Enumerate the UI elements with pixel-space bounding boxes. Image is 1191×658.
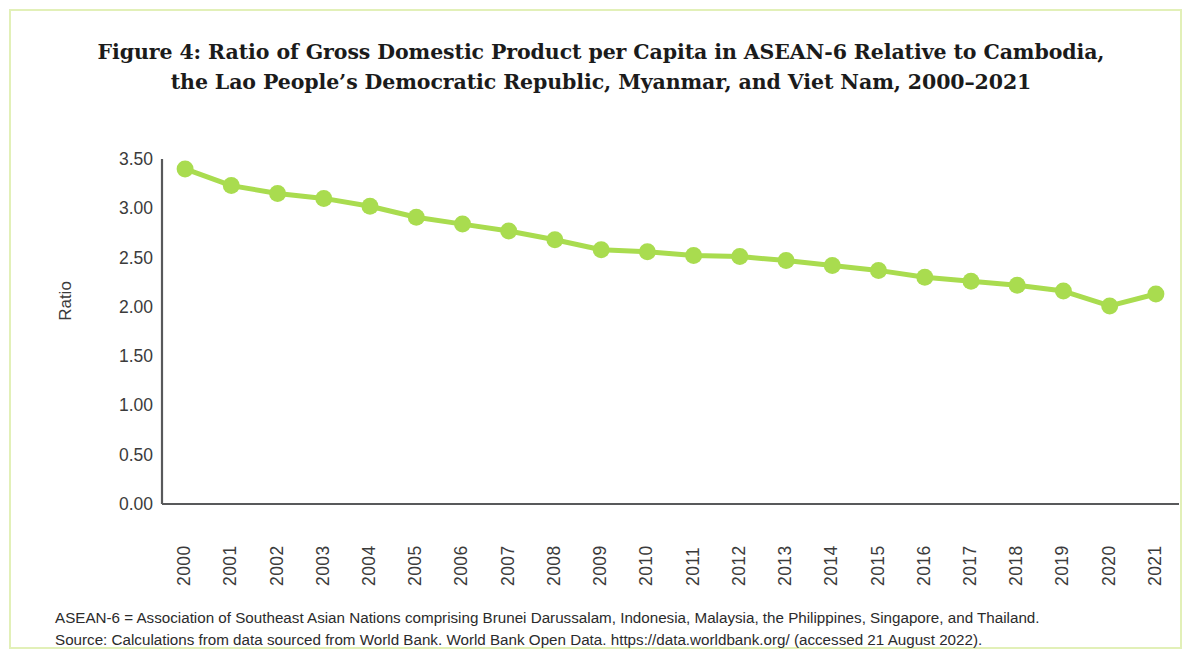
chart-area: Ratio 0.000.501.001.502.002.503.003.50 2… <box>11 11 1191 611</box>
note-abbreviation: ASEAN-6 = Association of Southeast Asian… <box>55 607 1175 629</box>
data-point-marker <box>362 198 379 215</box>
data-point-marker <box>1147 286 1164 303</box>
data-point-marker <box>593 241 610 258</box>
data-point-marker <box>408 209 425 226</box>
data-point-marker <box>546 231 563 248</box>
data-point-marker <box>1101 297 1118 314</box>
data-point-marker <box>1055 283 1072 300</box>
data-point-marker <box>1009 277 1026 294</box>
axis-lines <box>162 159 1179 504</box>
data-point-marker <box>454 216 471 233</box>
figure-frame: Figure 4: Ratio of Gross Domestic Produc… <box>9 9 1182 649</box>
data-point-marker <box>824 257 841 274</box>
data-point-marker <box>177 160 194 177</box>
data-point-marker <box>315 190 332 207</box>
data-point-marker <box>639 243 656 260</box>
data-point-marker <box>916 269 933 286</box>
data-point-marker <box>778 252 795 269</box>
data-point-marker <box>685 247 702 264</box>
note-source: Source: Calculations from data sourced f… <box>55 629 1175 651</box>
data-point-marker <box>223 177 240 194</box>
series-markers <box>177 160 1165 314</box>
data-point-marker <box>269 185 286 202</box>
data-point-marker <box>870 262 887 279</box>
figure-notes: ASEAN-6 = Association of Southeast Asian… <box>55 607 1175 651</box>
chart-plot <box>11 11 1191 611</box>
data-point-marker <box>731 248 748 265</box>
data-point-marker <box>963 273 980 290</box>
data-point-marker <box>500 223 517 240</box>
